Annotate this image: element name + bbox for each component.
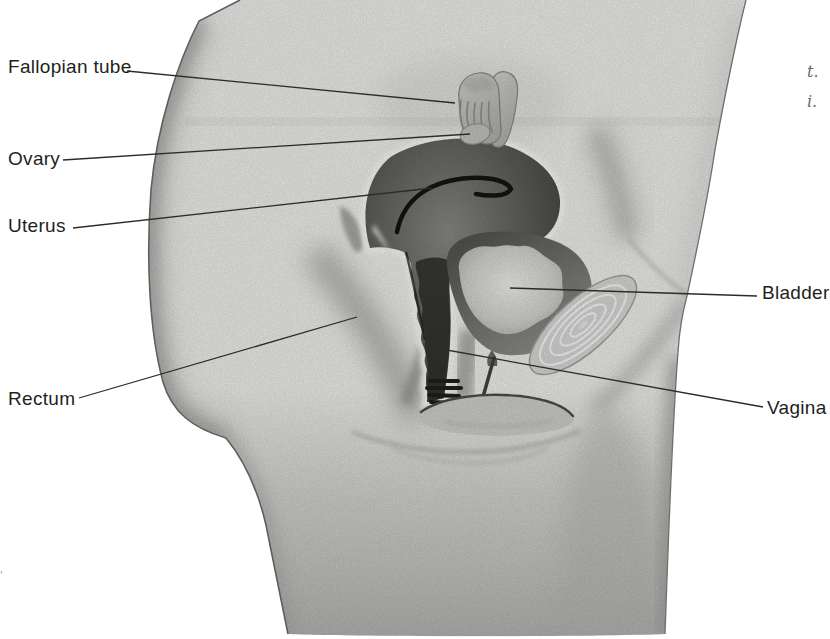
page-edge-artifact: ' <box>0 570 2 580</box>
label-ovary: Ovary <box>8 149 60 169</box>
label-uterus: Uterus <box>8 216 66 236</box>
label-fallopian-tube: Fallopian tube <box>8 57 132 77</box>
label-vagina: Vagina <box>767 398 827 418</box>
page-margin-text-line1: t. <box>807 64 819 80</box>
label-bladder: Bladder <box>762 283 830 303</box>
print-grain-overlay <box>149 0 746 636</box>
pelvis-sagittal-illustration <box>0 0 830 639</box>
label-rectum: Rectum <box>8 389 75 409</box>
page-margin-text-line2: i. <box>807 94 817 110</box>
figure-canvas: Fallopian tube Ovary Uterus Rectum Bladd… <box>0 0 830 639</box>
